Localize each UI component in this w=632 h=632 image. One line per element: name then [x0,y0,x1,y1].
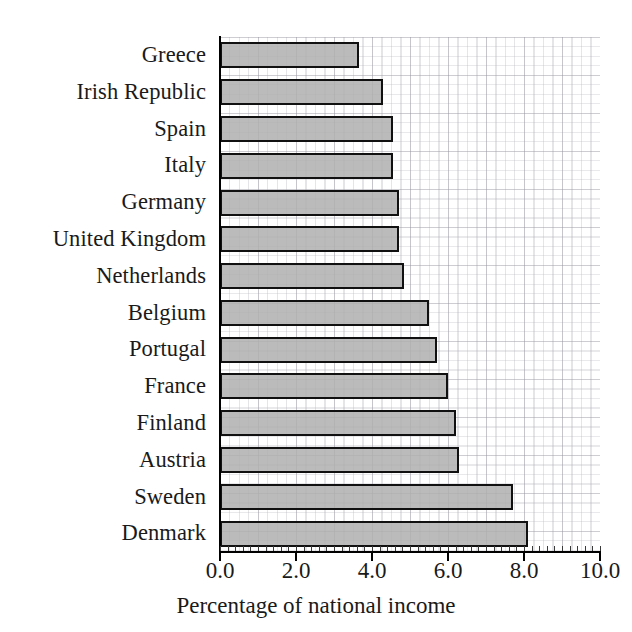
bar-row [220,74,600,111]
category-label: Portugal [0,331,213,368]
bar [220,42,359,68]
x-minor-tick [250,546,251,551]
bar-row [220,295,600,332]
x-minor-tick [326,546,327,551]
x-minor-tick [471,546,472,551]
x-minor-tick [266,546,267,551]
x-minor-tick [311,546,312,551]
x-minor-tick [281,546,282,551]
bar-row [220,184,600,221]
x-minor-tick [433,546,434,551]
x-minor-tick [334,546,335,551]
category-label: Italy [0,147,213,184]
x-minor-tick [296,546,297,551]
x-minor-tick [364,546,365,551]
category-label: Germany [0,184,213,221]
x-minor-tick [516,546,517,551]
x-minor-tick [342,546,343,551]
x-axis-line [219,551,601,553]
plot-area [220,37,600,552]
x-minor-tick [410,546,411,551]
x-minor-tick [387,546,388,551]
x-tick-label: 10.0 [560,559,632,582]
x-minor-tick [228,546,229,551]
category-label: Spain [0,111,213,148]
bar [220,521,528,547]
bar-chart-figure: GreeceIrish RepublicSpainItalyGermanyUni… [0,0,632,632]
bar [220,226,399,252]
x-minor-tick [570,546,571,551]
category-label: Sweden [0,478,213,515]
category-label: Belgium [0,294,213,331]
category-label: United Kingdom [0,221,213,258]
x-minor-tick [380,546,381,551]
bar [220,79,383,105]
x-minor-tick [509,546,510,551]
bar-row [220,478,600,515]
x-tick-label: 6.0 [408,559,488,582]
x-minor-tick [463,546,464,551]
bar-row [220,111,600,148]
x-minor-tick [501,546,502,551]
bar-row [220,258,600,295]
bar [220,263,404,289]
x-minor-tick [319,546,320,551]
bar [220,410,456,436]
category-label: Irish Republic [0,74,213,111]
bar-row [220,405,600,442]
x-tick-label: 8.0 [484,559,564,582]
x-minor-tick [220,546,221,551]
x-minor-tick [258,546,259,551]
x-minor-tick [600,546,601,551]
bar [220,447,459,473]
category-label: Austria [0,442,213,479]
x-minor-tick [273,546,274,551]
bar [220,116,393,142]
x-minor-tick [456,546,457,551]
category-label: Netherlands [0,258,213,295]
x-minor-tick [547,546,548,551]
x-minor-tick [478,546,479,551]
category-axis-labels: GreeceIrish RepublicSpainItalyGermanyUni… [0,37,213,552]
x-axis-title: Percentage of national income [0,594,632,617]
y-axis-line [219,36,221,553]
x-minor-tick [532,546,533,551]
x-minor-tick [372,546,373,551]
bar [220,337,437,363]
bar [220,300,429,326]
x-minor-tick [577,546,578,551]
bar [220,153,393,179]
x-minor-tick [425,546,426,551]
x-minor-tick [562,546,563,551]
category-label: France [0,368,213,405]
x-minor-tick [235,546,236,551]
x-tick-label: 0.0 [180,559,260,582]
x-minor-tick [448,546,449,551]
x-minor-tick [494,546,495,551]
x-minor-tick [349,546,350,551]
x-tick-label: 4.0 [332,559,412,582]
bar-row [220,331,600,368]
x-minor-tick [395,546,396,551]
x-minor-tick [357,546,358,551]
category-label: Denmark [0,515,213,552]
x-minor-tick [402,546,403,551]
x-minor-tick [539,546,540,551]
x-minor-tick [304,546,305,551]
bar-row [220,37,600,74]
bar-row [220,147,600,184]
category-label: Greece [0,37,213,74]
category-label: Finland [0,405,213,442]
x-minor-tick [440,546,441,551]
bar [220,484,513,510]
bar [220,190,399,216]
x-minor-tick [243,546,244,551]
x-minor-tick [585,546,586,551]
bar-row [220,442,600,479]
bar [220,373,448,399]
x-minor-tick [524,546,525,551]
x-minor-tick [554,546,555,551]
x-minor-tick [288,546,289,551]
bar-row [220,221,600,258]
x-tick-label: 2.0 [256,559,336,582]
